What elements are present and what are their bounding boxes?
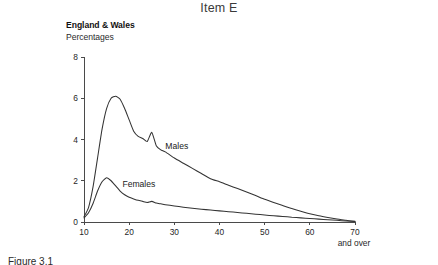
x-tick-label: 50 (260, 227, 270, 237)
y-tick-label: 4 (73, 135, 78, 145)
series-curve-males (84, 96, 355, 221)
y-tick-label: 6 (73, 93, 78, 103)
y-tick-label: 2 (73, 176, 78, 186)
x-tick-label: 30 (170, 227, 180, 237)
x-tick-label: 20 (125, 227, 135, 237)
x-tick-label: 40 (215, 227, 225, 237)
x-tick-label: 60 (305, 227, 315, 237)
series-label-males: Males (165, 141, 188, 151)
x-axis-note: and over (338, 238, 371, 248)
x-tick-label: 10 (79, 227, 89, 237)
y-tick-label: 8 (73, 52, 78, 62)
line-chart: 02468 10203040506070 and over Males Fema… (0, 0, 438, 265)
figure-caption: Figure 3.1 (8, 257, 438, 265)
axis-frame (84, 57, 355, 222)
figure-caption-text: Figure 3.1 (8, 257, 438, 265)
axis-group (81, 57, 355, 225)
y-axis-tick-labels: 02468 (73, 52, 78, 227)
x-tick-label: 70 (350, 227, 360, 237)
x-axis-tick-labels: 10203040506070 (79, 227, 360, 237)
y-tick-label: 0 (73, 217, 78, 227)
series-label-females: Females (122, 179, 155, 189)
